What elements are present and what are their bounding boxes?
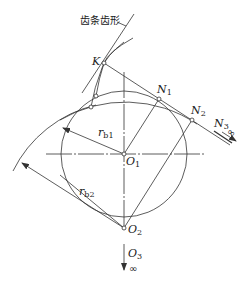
label-o1: O1 xyxy=(126,156,140,169)
gear-rack-diagram: 齿条齿形 K N1 N2 N3 ∞ O1 O2 O3 ∞ rb1 rb2 xyxy=(0,0,243,286)
rack-profile-label: 齿条齿形 xyxy=(80,16,120,26)
label-o3: O3 xyxy=(128,248,142,261)
point-n2 xyxy=(190,118,194,122)
label-o1-sub: 1 xyxy=(135,160,140,169)
label-o3-sub: 3 xyxy=(137,252,142,261)
label-n1: N1 xyxy=(157,84,172,97)
label-o2: O2 xyxy=(128,224,142,237)
label-k: K xyxy=(92,56,100,67)
rb2-dimension-line xyxy=(22,163,124,228)
addendum-arc-2 xyxy=(60,102,197,124)
o2-tangent-line xyxy=(60,175,124,228)
involute-start-2 xyxy=(89,105,93,109)
involute-start-1 xyxy=(94,94,98,98)
o1-n1-line xyxy=(124,99,159,154)
point-o2 xyxy=(122,226,126,230)
diagram-graphics xyxy=(0,0,243,286)
label-n2-main: N xyxy=(191,104,201,117)
label-rb1-sub: b1 xyxy=(103,131,113,140)
label-n1-main: N xyxy=(157,83,167,96)
label-n3-main: N xyxy=(214,117,224,130)
label-rb1: rb1 xyxy=(98,127,113,140)
label-n2: N2 xyxy=(191,105,206,118)
label-n3: N3 xyxy=(214,118,229,131)
base-circle-2-arc xyxy=(13,105,96,171)
point-n1 xyxy=(157,97,161,101)
label-o2-main: O xyxy=(128,223,137,236)
label-o2-sub: 2 xyxy=(137,228,142,237)
line-of-action xyxy=(104,63,230,145)
label-n1-sub: 1 xyxy=(167,88,172,97)
rb1-dimension-line xyxy=(63,128,124,154)
label-o1-main: O xyxy=(126,155,135,168)
label-rb2-sub: b2 xyxy=(84,190,94,199)
label-o3-main: O xyxy=(128,247,137,260)
infinity-o3: ∞ xyxy=(129,264,137,274)
label-n2-sub: 2 xyxy=(201,109,206,118)
label-rb2: rb2 xyxy=(79,186,94,199)
o2-n2-line xyxy=(124,120,192,228)
point-k xyxy=(102,61,106,65)
involute-curve-1 xyxy=(96,38,133,96)
